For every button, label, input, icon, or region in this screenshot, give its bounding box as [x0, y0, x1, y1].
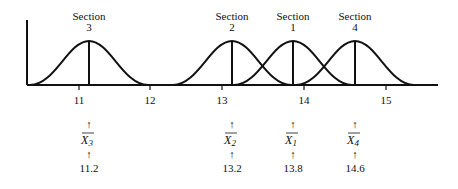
up-arrow-icon: ↑ — [290, 118, 296, 130]
up-arrow-icon: ↑ — [290, 148, 296, 160]
up-arrow-icon: ↑ — [229, 118, 235, 130]
mean-symbol: X2 — [223, 133, 236, 148]
mean-symbol: X4 — [346, 133, 359, 148]
mean-symbol: X3 — [80, 133, 93, 148]
mean-value: 11.2 — [80, 162, 99, 174]
up-arrow-icon: ↑ — [352, 118, 358, 130]
mean-value: 14.6 — [345, 162, 365, 174]
x-tick-labels: 11 12 13 14 15 — [74, 94, 392, 106]
section-number: 4 — [352, 21, 358, 33]
up-arrow-icon: ↑ — [352, 148, 358, 160]
tick-label: 15 — [381, 94, 393, 106]
normal-curves-diagram: 11 12 13 14 15 Section 3 Section 2 Secti… — [0, 0, 458, 189]
tick-label: 12 — [145, 94, 156, 106]
up-arrow-icon: ↑ — [86, 118, 92, 130]
section-number: 1 — [290, 21, 296, 33]
section-number: 3 — [86, 21, 92, 33]
mean-annotations: ↑ X3 ↑ 11.2 ↑ X2 ↑ 13.2 ↑ X1 ↑ 13.8 ↑ X4… — [80, 118, 366, 174]
up-arrow-icon: ↑ — [229, 148, 235, 160]
tick-label: 11 — [74, 94, 85, 106]
tick-label: 13 — [217, 94, 229, 106]
mean-value: 13.2 — [222, 162, 241, 174]
tick-label: 14 — [299, 94, 311, 106]
section-number: 2 — [229, 21, 235, 33]
up-arrow-icon: ↑ — [86, 148, 92, 160]
bell-curves — [30, 41, 414, 85]
section-labels: Section 3 Section 2 Section 1 Section 4 — [73, 10, 372, 33]
mean-value: 13.8 — [283, 162, 303, 174]
mean-lines — [89, 41, 355, 85]
mean-symbol: X1 — [284, 133, 297, 148]
